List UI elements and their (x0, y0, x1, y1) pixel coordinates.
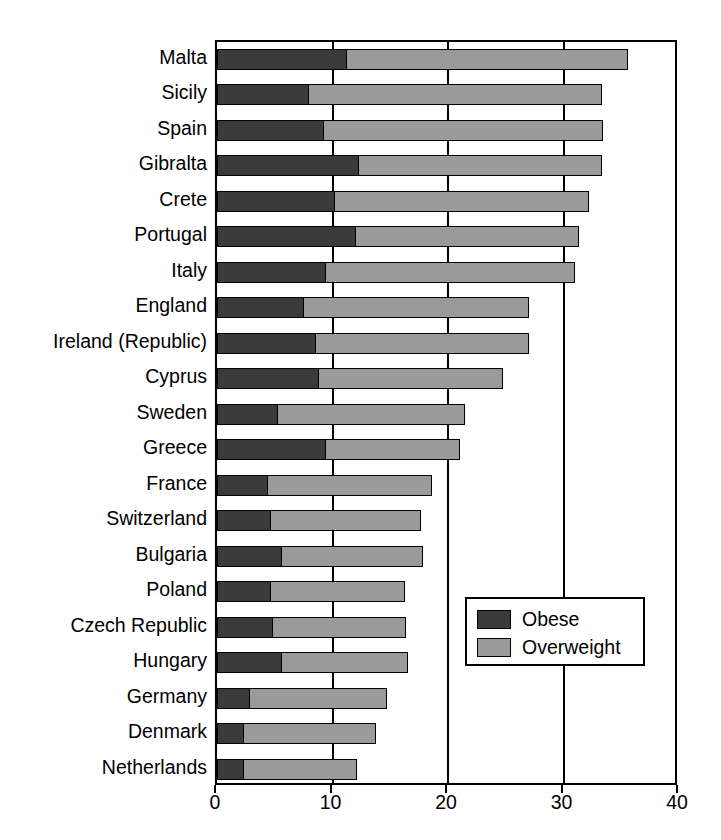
legend-item[interactable]: Obese (477, 605, 643, 633)
bar-segment-overweight[interactable] (270, 510, 422, 531)
bar-segment-overweight[interactable] (277, 404, 466, 425)
category-label: Spain (0, 118, 207, 139)
bar-row (217, 539, 679, 574)
bar-segment-overweight[interactable] (346, 49, 628, 70)
bar-segment-obese[interactable] (217, 439, 327, 460)
bar-segment-overweight[interactable] (325, 439, 459, 460)
stacked-bar[interactable] (217, 226, 579, 247)
x-tick-label: 20 (435, 790, 457, 814)
category-label: Denmark (0, 721, 207, 742)
bar-segment-obese[interactable] (217, 226, 357, 247)
stacked-bar[interactable] (217, 49, 628, 70)
stacked-bar[interactable] (217, 191, 589, 212)
category-label: Sweden (0, 402, 207, 423)
stacked-bar[interactable] (217, 617, 406, 638)
category-label: Sicily (0, 82, 207, 103)
stacked-bar[interactable] (217, 368, 503, 389)
bar-segment-overweight[interactable] (325, 262, 575, 283)
category-label: Hungary (0, 650, 207, 671)
category-label: Malta (0, 47, 207, 68)
bar-row (217, 290, 679, 325)
category-label: Gibralta (0, 153, 207, 174)
bar-segment-obese[interactable] (217, 510, 271, 531)
bar-segment-obese[interactable] (217, 652, 283, 673)
stacked-bar[interactable] (217, 581, 405, 602)
x-tick-label: 0 (210, 790, 221, 814)
stacked-bar[interactable] (217, 723, 376, 744)
bar-segment-overweight[interactable] (243, 759, 357, 780)
bar-row (217, 503, 679, 538)
bar-row (217, 113, 679, 148)
bar-segment-overweight[interactable] (358, 155, 602, 176)
bar-row (217, 468, 679, 503)
bar-segment-obese[interactable] (217, 546, 283, 567)
bar-segment-overweight[interactable] (334, 191, 588, 212)
bar-segment-overweight[interactable] (308, 84, 602, 105)
stacked-bar[interactable] (217, 262, 575, 283)
bar-segment-overweight[interactable] (267, 475, 431, 496)
bar-segment-obese[interactable] (217, 617, 274, 638)
category-label: Italy (0, 260, 207, 281)
stacked-bar[interactable] (217, 546, 423, 567)
bar-segment-obese[interactable] (217, 688, 250, 709)
x-tick-label: 10 (320, 790, 342, 814)
stacked-bar[interactable] (217, 333, 529, 354)
bar-segment-overweight[interactable] (281, 546, 422, 567)
bar-row (217, 716, 679, 751)
bar-segment-obese[interactable] (217, 475, 269, 496)
bar-segment-obese[interactable] (217, 262, 327, 283)
bar-segment-overweight[interactable] (243, 723, 376, 744)
stacked-bar-chart: MaltaSicilySpainGibraltaCretePortugalIta… (0, 0, 721, 840)
category-label: Ireland (Republic) (0, 331, 207, 352)
bar-row (217, 77, 679, 112)
bar-segment-obese[interactable] (217, 368, 320, 389)
bar-segment-overweight[interactable] (281, 652, 407, 673)
bar-segment-obese[interactable] (217, 155, 359, 176)
bar-row (217, 148, 679, 183)
stacked-bar[interactable] (217, 439, 460, 460)
stacked-bar[interactable] (217, 510, 421, 531)
bar-segment-obese[interactable] (217, 120, 324, 141)
bar-segment-overweight[interactable] (272, 617, 406, 638)
legend-item[interactable]: Overweight (477, 633, 643, 661)
stacked-bar[interactable] (217, 759, 357, 780)
category-label: Crete (0, 189, 207, 210)
bar-segment-obese[interactable] (217, 581, 271, 602)
stacked-bar[interactable] (217, 688, 387, 709)
bar-segment-overweight[interactable] (355, 226, 578, 247)
bar-segment-overweight[interactable] (323, 120, 603, 141)
stacked-bar[interactable] (217, 84, 602, 105)
chart-legend: ObeseOverweight (465, 597, 645, 666)
stacked-bar[interactable] (217, 475, 432, 496)
bar-segment-overweight[interactable] (303, 297, 529, 318)
bar-segment-obese[interactable] (217, 759, 245, 780)
bar-row (217, 397, 679, 432)
bar-segment-obese[interactable] (217, 84, 309, 105)
bar-segment-obese[interactable] (217, 297, 305, 318)
bar-segment-obese[interactable] (217, 49, 348, 70)
bar-row (217, 184, 679, 219)
category-label: Greece (0, 437, 207, 458)
bar-segment-overweight[interactable] (315, 333, 529, 354)
stacked-bar[interactable] (217, 120, 603, 141)
bar-segment-obese[interactable] (217, 191, 336, 212)
category-label: France (0, 473, 207, 494)
bar-segment-obese[interactable] (217, 333, 316, 354)
bar-row (217, 326, 679, 361)
category-label: Czech Republic (0, 615, 207, 636)
stacked-bar[interactable] (217, 155, 602, 176)
legend-label: Overweight (522, 637, 621, 658)
bar-segment-overweight[interactable] (270, 581, 405, 602)
bar-row (217, 255, 679, 290)
legend-swatch-obese (477, 610, 511, 629)
stacked-bar[interactable] (217, 404, 465, 425)
bar-segment-overweight[interactable] (318, 368, 503, 389)
category-label: Cyprus (0, 366, 207, 387)
bar-row (217, 361, 679, 396)
stacked-bar[interactable] (217, 652, 408, 673)
bar-segment-obese[interactable] (217, 723, 245, 744)
stacked-bar[interactable] (217, 297, 529, 318)
bar-row (217, 752, 679, 787)
bar-segment-overweight[interactable] (249, 688, 387, 709)
bar-segment-obese[interactable] (217, 404, 278, 425)
